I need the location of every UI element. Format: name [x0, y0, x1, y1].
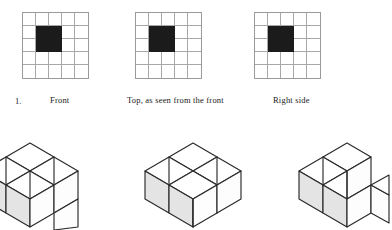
grid-cell-empty[interactable]: [255, 65, 268, 78]
grid-cell-empty[interactable]: [136, 65, 149, 78]
view-block-right: Right side: [254, 12, 321, 79]
grid-cell-empty[interactable]: [49, 52, 62, 65]
isometric-cube-assembly-middle: [143, 135, 243, 230]
grid-cell-filled[interactable]: [36, 39, 49, 52]
grid-row: [136, 52, 201, 65]
grid-row: [255, 13, 320, 26]
grid-cell-empty[interactable]: [23, 13, 36, 26]
grid-cell-empty[interactable]: [255, 39, 268, 52]
grid-cell-empty[interactable]: [75, 39, 88, 52]
grid-cell-empty[interactable]: [49, 13, 62, 26]
grid-cell-empty[interactable]: [175, 26, 188, 39]
grid-cell-empty[interactable]: [175, 52, 188, 65]
grid-cell-empty[interactable]: [268, 65, 281, 78]
grid-cell-empty[interactable]: [149, 65, 162, 78]
grid-row: [136, 26, 201, 39]
grid-cell-filled[interactable]: [49, 26, 62, 39]
grid-cell-filled[interactable]: [149, 26, 162, 39]
grid-cell-filled[interactable]: [268, 26, 281, 39]
grid-cell-filled[interactable]: [268, 39, 281, 52]
grid-cell-empty[interactable]: [281, 52, 294, 65]
grid-cell-empty[interactable]: [268, 13, 281, 26]
grid-cell-empty[interactable]: [307, 39, 320, 52]
grid-cell-empty[interactable]: [294, 52, 307, 65]
grid-cell-filled[interactable]: [36, 26, 49, 39]
grid-cell-empty[interactable]: [255, 26, 268, 39]
grid-5x5-icon: [254, 12, 321, 79]
solid-middle-drawing: [143, 135, 243, 230]
grid-cell-empty[interactable]: [294, 26, 307, 39]
grid-row: [23, 13, 88, 26]
grid-cell-empty[interactable]: [62, 65, 75, 78]
view-block-front: Front: [22, 12, 89, 79]
grid-row: [255, 52, 320, 65]
grid-cell-empty[interactable]: [162, 13, 175, 26]
grid-cell-filled[interactable]: [149, 39, 162, 52]
grid-cell-empty[interactable]: [36, 52, 49, 65]
grid-cell-empty[interactable]: [75, 52, 88, 65]
grid-cell-empty[interactable]: [136, 13, 149, 26]
grid-row: [136, 13, 201, 26]
grid-cell-empty[interactable]: [62, 26, 75, 39]
grid-5x5-icon: [135, 12, 202, 79]
orthographic-views-section: Front Top, as seen from the front Right …: [0, 0, 388, 113]
grid-row: [23, 26, 88, 39]
grid-cell-filled[interactable]: [281, 39, 294, 52]
grid-cell-empty[interactable]: [268, 52, 281, 65]
view-label-right-side: Right side: [273, 95, 310, 105]
grid-cell-empty[interactable]: [188, 39, 201, 52]
grid-cell-empty[interactable]: [149, 13, 162, 26]
grid-cell-empty[interactable]: [62, 39, 75, 52]
grid-cell-filled[interactable]: [162, 39, 175, 52]
grid-cell-empty[interactable]: [188, 13, 201, 26]
grid-cell-empty[interactable]: [307, 26, 320, 39]
view-block-top: Top, as seen from the front: [135, 12, 202, 79]
grid-cell-empty[interactable]: [255, 13, 268, 26]
grid-cell-empty[interactable]: [281, 65, 294, 78]
grid-cell-empty[interactable]: [175, 13, 188, 26]
grid-cell-empty[interactable]: [294, 13, 307, 26]
grid-cell-empty[interactable]: [136, 52, 149, 65]
grid-row: [255, 39, 320, 52]
grid-cell-empty[interactable]: [175, 39, 188, 52]
grid-cell-empty[interactable]: [281, 13, 294, 26]
grid-row: [136, 65, 201, 78]
grid-cell-empty[interactable]: [23, 65, 36, 78]
grid-cell-empty[interactable]: [307, 13, 320, 26]
grid-cell-empty[interactable]: [136, 39, 149, 52]
grid-cell-empty[interactable]: [75, 26, 88, 39]
grid-cell-empty[interactable]: [136, 26, 149, 39]
grid-cell-empty[interactable]: [62, 13, 75, 26]
grid-cell-empty[interactable]: [75, 13, 88, 26]
grid-cell-empty[interactable]: [75, 65, 88, 78]
grid-cell-empty[interactable]: [162, 52, 175, 65]
grid-cell-empty[interactable]: [23, 52, 36, 65]
grid-cell-empty[interactable]: [23, 39, 36, 52]
grid-cell-filled[interactable]: [162, 26, 175, 39]
grid-row: [255, 65, 320, 78]
isometric-cube-assembly-right: [297, 135, 392, 230]
grid-row: [136, 39, 201, 52]
grid-cell-filled[interactable]: [49, 39, 62, 52]
grid-cell-empty[interactable]: [36, 13, 49, 26]
grid-cell-empty[interactable]: [49, 65, 62, 78]
problem-number: 1.: [15, 96, 21, 106]
solid-right-drawing: [297, 135, 392, 230]
grid-cell-empty[interactable]: [188, 26, 201, 39]
grid-cell-empty[interactable]: [36, 65, 49, 78]
grid-cell-empty[interactable]: [307, 52, 320, 65]
grid-cell-empty[interactable]: [23, 26, 36, 39]
grid-cell-empty[interactable]: [62, 52, 75, 65]
grid-cell-empty[interactable]: [255, 52, 268, 65]
view-label-front: Front: [50, 95, 69, 105]
grid-cell-empty[interactable]: [149, 52, 162, 65]
grid-cell-empty[interactable]: [162, 65, 175, 78]
grid-cell-empty[interactable]: [294, 39, 307, 52]
grid-cell-empty[interactable]: [175, 65, 188, 78]
view-label-top: Top, as seen from the front: [127, 95, 224, 105]
grid-cell-empty[interactable]: [294, 65, 307, 78]
grid-cell-empty[interactable]: [307, 65, 320, 78]
grid-cell-empty[interactable]: [188, 65, 201, 78]
grid-cell-empty[interactable]: [188, 52, 201, 65]
grid-cell-filled[interactable]: [281, 26, 294, 39]
